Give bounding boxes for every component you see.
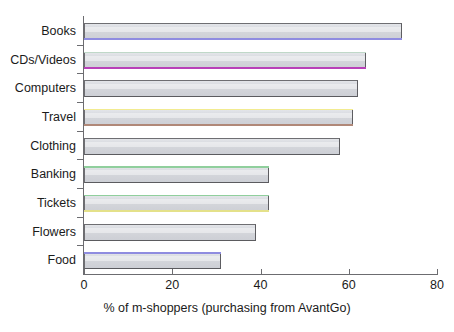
bar-computers bbox=[84, 80, 358, 97]
x-axis-title: % of m-shoppers (purchasing from AvantGo… bbox=[0, 301, 454, 315]
bar-chart: 020406080 % of m-shoppers (purchasing fr… bbox=[0, 0, 454, 332]
bar-cds-videos bbox=[84, 52, 366, 69]
y-axis-tick bbox=[77, 102, 83, 103]
bar-food bbox=[84, 252, 221, 269]
category-label-flowers: Flowers bbox=[0, 225, 76, 239]
x-axis-tick bbox=[172, 269, 173, 275]
x-axis-tick-label: 40 bbox=[254, 278, 268, 292]
bar-books bbox=[84, 23, 402, 40]
category-label-tickets: Tickets bbox=[0, 196, 76, 210]
x-axis-tick-label: 20 bbox=[165, 278, 179, 292]
bar-flowers bbox=[84, 224, 256, 241]
category-label-banking: Banking bbox=[0, 167, 76, 181]
y-axis-tick bbox=[77, 217, 83, 218]
x-axis-tick-label: 80 bbox=[430, 278, 444, 292]
x-axis-tick bbox=[84, 269, 85, 275]
category-label-cds-videos: CDs/Videos bbox=[0, 53, 76, 67]
y-axis-tick bbox=[77, 188, 83, 189]
category-label-computers: Computers bbox=[0, 81, 76, 95]
y-axis-tick bbox=[77, 245, 83, 246]
x-axis-tick-label: 60 bbox=[342, 278, 356, 292]
y-axis-tick bbox=[77, 73, 83, 74]
y-axis-tick bbox=[77, 131, 83, 132]
category-label-travel: Travel bbox=[0, 110, 76, 124]
y-axis-tick bbox=[77, 45, 83, 46]
category-label-clothing: Clothing bbox=[0, 139, 76, 153]
bar-tickets bbox=[84, 195, 269, 212]
x-axis-tick-label: 0 bbox=[81, 278, 88, 292]
x-axis-tick bbox=[261, 269, 262, 275]
y-axis-tick bbox=[77, 159, 83, 160]
category-label-food: Food bbox=[0, 253, 76, 267]
bar-banking bbox=[84, 166, 269, 183]
bar-travel bbox=[84, 109, 353, 126]
x-axis-tick bbox=[437, 269, 438, 275]
category-label-books: Books bbox=[0, 24, 76, 38]
bar-clothing bbox=[84, 138, 340, 155]
x-axis-tick bbox=[349, 269, 350, 275]
